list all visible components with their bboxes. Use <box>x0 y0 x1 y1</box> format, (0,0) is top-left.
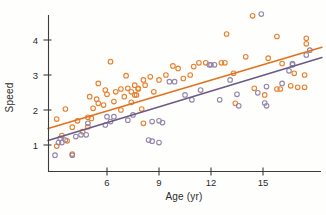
series-orange-point <box>157 78 162 83</box>
series-purple-point <box>150 119 155 124</box>
series-purple-point <box>264 84 269 89</box>
series-purple-point <box>304 53 309 58</box>
y-tick-label: 1 <box>33 140 38 151</box>
series-orange-point <box>70 125 75 130</box>
series-orange-point <box>191 64 196 69</box>
series-orange-point <box>164 73 169 78</box>
series-orange-point <box>119 108 124 113</box>
series-orange-point <box>275 34 280 39</box>
x-axis-label: Age (yr) <box>104 191 264 202</box>
series-purple-point <box>217 98 222 103</box>
series-orange-point <box>302 85 307 90</box>
series-purple-point <box>183 93 188 98</box>
y-tick-label: 3 <box>33 70 38 81</box>
series-orange-point <box>63 107 68 112</box>
chart-canvas: 1234691215 <box>0 0 326 215</box>
series-purple-point <box>255 91 260 96</box>
series-orange-point <box>197 61 202 66</box>
series-orange-point <box>87 94 92 99</box>
series-orange-point <box>176 66 181 71</box>
series-purple-point <box>105 114 110 119</box>
series-orange-point <box>96 101 101 106</box>
series-orange-point <box>124 73 129 78</box>
series-orange-point <box>105 92 110 97</box>
series-orange-point <box>250 14 255 19</box>
series-purple-point <box>287 69 292 74</box>
series-orange-point <box>152 90 157 95</box>
x-tick-label: 6 <box>104 177 109 188</box>
x-tick-label: 15 <box>258 177 269 188</box>
series-orange-point <box>91 106 96 111</box>
series-orange-point <box>54 117 59 122</box>
series-orange-point <box>224 32 229 37</box>
series-purple-point <box>157 140 162 145</box>
x-tick-label: 9 <box>156 177 161 188</box>
page-background: 1234691215 Age (yr) Speed <box>0 0 326 215</box>
series-orange-point <box>101 103 106 108</box>
series-orange-point <box>288 84 293 89</box>
series-purple-point <box>53 153 58 158</box>
series-purple-point <box>280 81 285 86</box>
series-orange-trend-line <box>48 47 322 128</box>
series-orange-point <box>139 107 144 112</box>
series-orange-point <box>302 73 307 78</box>
series-orange-point <box>181 76 186 81</box>
series-purple-point <box>228 78 233 83</box>
series-purple-point <box>74 134 79 139</box>
series-orange-point <box>108 59 113 64</box>
scatter-chart: 1234691215 Age (yr) Speed <box>0 0 326 215</box>
series-purple-point <box>198 88 203 93</box>
series-orange-point <box>112 99 117 104</box>
series-purple-point <box>84 133 89 138</box>
series-purple-point <box>167 79 172 84</box>
series-orange-point <box>280 61 285 66</box>
series-orange-point <box>141 78 146 83</box>
series-orange-point <box>243 55 248 60</box>
series-purple-point <box>235 92 240 97</box>
series-orange-point <box>148 75 153 80</box>
series-orange-point <box>171 64 176 69</box>
series-orange-point <box>266 56 271 61</box>
y-tick-label: 2 <box>33 105 38 116</box>
series-purple-point <box>172 79 177 84</box>
series-purple-point <box>259 12 264 17</box>
series-orange-point <box>295 85 300 90</box>
series-orange-point <box>143 83 148 88</box>
y-tick-label: 4 <box>33 35 38 46</box>
series-orange-point <box>119 87 124 92</box>
series-orange-point <box>292 71 297 76</box>
series-orange-point <box>252 86 257 91</box>
series-purple-point <box>236 104 241 109</box>
x-tick-label: 12 <box>206 177 217 188</box>
series-orange-point <box>188 73 193 78</box>
series-orange-point <box>262 93 267 98</box>
series-purple-point <box>112 114 117 119</box>
series-orange-point <box>122 94 127 99</box>
series-orange-point <box>304 36 309 41</box>
series-purple-point <box>126 118 131 123</box>
y-axis-label: Speed <box>4 58 15 138</box>
series-orange-point <box>141 121 146 126</box>
series-orange-point <box>304 42 309 47</box>
series-orange-point <box>96 81 101 86</box>
series-orange-point <box>113 90 118 95</box>
